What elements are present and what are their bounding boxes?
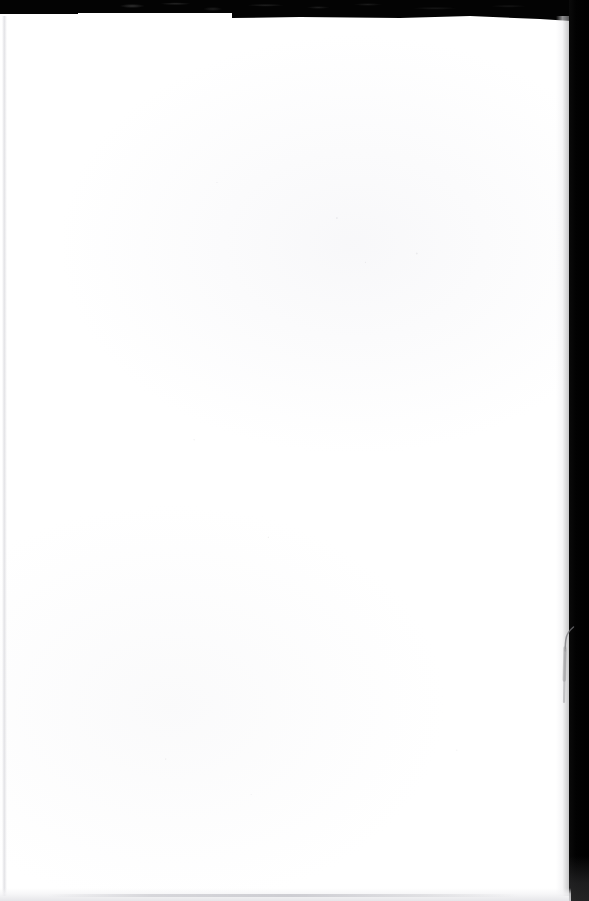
scanner-band-right [569,0,589,901]
scanned-page-frame [0,0,589,901]
page-text [46,60,526,860]
